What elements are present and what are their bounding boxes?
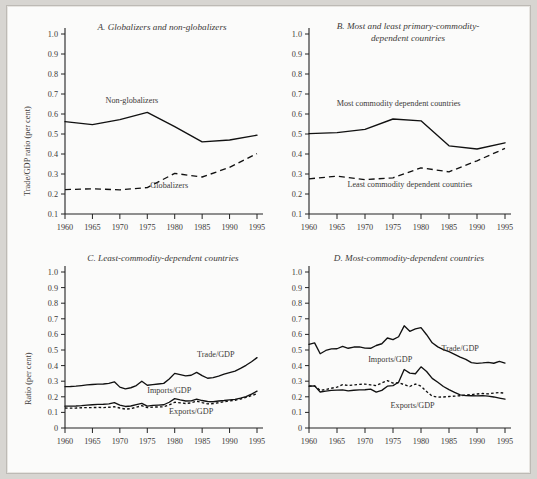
series-line-exports-gdp bbox=[309, 381, 505, 398]
x-tick-label: 1965 bbox=[84, 437, 100, 446]
x-tick-label: 1985 bbox=[194, 437, 210, 446]
y-tick-label: 0.3 bbox=[48, 377, 58, 386]
y-tick-label: 1.0 bbox=[48, 268, 58, 277]
panel-b-title: B. Most and least primary-commodity- dep… bbox=[309, 21, 507, 44]
y-tick-label: 0.2 bbox=[48, 190, 58, 199]
y-tick-label: 0.3 bbox=[292, 377, 302, 386]
y-tick-label: 0.1 bbox=[292, 210, 302, 219]
x-tick-label: 1965 bbox=[329, 223, 345, 232]
series-label: Imports/GDP bbox=[368, 355, 413, 364]
x-tick-label: 1970 bbox=[112, 223, 128, 232]
x-tick-label: 1980 bbox=[413, 223, 429, 232]
x-tick-label: 1960 bbox=[301, 223, 317, 232]
series-label: Exports/GDP bbox=[169, 407, 214, 416]
panel-b: B. Most and least primary-commodity- dep… bbox=[267, 6, 530, 240]
panel-d-plot: 00.10.20.30.40.50.60.70.80.91.0196019651… bbox=[267, 240, 530, 473]
series-line-least-commodity-dependent-countries bbox=[309, 148, 505, 179]
x-tick-label: 1960 bbox=[57, 223, 73, 232]
x-tick-label: 1995 bbox=[497, 437, 513, 446]
x-tick-label: 1995 bbox=[249, 437, 265, 446]
series-line-imports-gdp bbox=[309, 367, 505, 399]
y-tick-label: 0.5 bbox=[48, 130, 58, 139]
y-tick-label: 1.0 bbox=[292, 268, 302, 277]
x-tick-label: 1975 bbox=[385, 437, 401, 446]
y-tick-label: 0.8 bbox=[292, 299, 302, 308]
x-tick-label: 1990 bbox=[221, 223, 237, 232]
series-line-non-globalizers bbox=[65, 112, 257, 141]
x-tick-label: 1995 bbox=[249, 223, 265, 232]
series-label: Most commodity dependent countries bbox=[337, 99, 461, 108]
y-tick-label: 0.1 bbox=[292, 408, 302, 417]
series-label: Non-globalizers bbox=[106, 96, 159, 105]
x-tick-label: 1990 bbox=[221, 437, 237, 446]
x-tick-label: 1960 bbox=[301, 437, 317, 446]
y-tick-label: 0.2 bbox=[292, 190, 302, 199]
y-tick-label: 0.7 bbox=[292, 90, 302, 99]
y-tick-label: 0.6 bbox=[48, 110, 58, 119]
series-label: Least commodity dependent countries bbox=[347, 180, 472, 189]
y-tick-label: 0.8 bbox=[48, 299, 58, 308]
x-tick-label: 1985 bbox=[441, 223, 457, 232]
y-tick-label: 1.0 bbox=[48, 30, 58, 39]
y-tick-label: 0.4 bbox=[48, 150, 58, 159]
series-label: Globalizers bbox=[150, 181, 188, 190]
x-tick-label: 1995 bbox=[497, 223, 513, 232]
series-line-trade-gdp bbox=[65, 358, 257, 389]
y-tick-label: 1.0 bbox=[292, 30, 302, 39]
x-tick-label: 1980 bbox=[167, 223, 183, 232]
y-tick-label: 0.7 bbox=[292, 315, 302, 324]
y-tick-label: 0.4 bbox=[48, 362, 58, 371]
series-line-most-commodity-dependent-countries bbox=[309, 119, 505, 149]
x-tick-label: 1965 bbox=[84, 223, 100, 232]
x-tick-label: 1990 bbox=[469, 223, 485, 232]
x-tick-label: 1985 bbox=[194, 223, 210, 232]
panel-a-ylabel: Trade/GDP ratio (per cent) bbox=[23, 106, 32, 196]
y-tick-label: 0.7 bbox=[48, 90, 58, 99]
x-tick-label: 1970 bbox=[112, 437, 128, 446]
panel-d: D. Most-commodity-dependent countries 00… bbox=[267, 240, 530, 473]
panel-a: A. Globalizers and non-globalizers Trade… bbox=[7, 6, 269, 240]
x-tick-label: 1975 bbox=[385, 223, 401, 232]
y-tick-label: 0.8 bbox=[292, 70, 302, 79]
y-tick-label: 0.5 bbox=[292, 346, 302, 355]
series-label: Imports/GDP bbox=[147, 386, 192, 395]
series-line-exports-gdp bbox=[65, 394, 257, 409]
y-tick-label: 0.4 bbox=[292, 362, 302, 371]
x-tick-label: 1965 bbox=[329, 437, 345, 446]
x-tick-label: 1990 bbox=[469, 437, 485, 446]
y-tick-label: 0.1 bbox=[48, 408, 58, 417]
series-label: Exports/GDP bbox=[391, 401, 436, 410]
series-label: Trade/GDP bbox=[441, 344, 479, 353]
y-tick-label: 0.7 bbox=[48, 315, 58, 324]
x-tick-label: 1980 bbox=[413, 437, 429, 446]
x-tick-label: 1970 bbox=[357, 223, 373, 232]
y-tick-label: 0.9 bbox=[292, 50, 302, 59]
y-tick-label: 0.3 bbox=[48, 170, 58, 179]
y-tick-label: 0.3 bbox=[292, 170, 302, 179]
panel-b-title-line2: dependent countries bbox=[371, 33, 445, 43]
figure-page: A. Globalizers and non-globalizers Trade… bbox=[0, 0, 537, 479]
x-tick-label: 1970 bbox=[357, 437, 373, 446]
y-tick-label: 0.6 bbox=[48, 330, 58, 339]
y-tick-label: 0.9 bbox=[292, 284, 302, 293]
x-tick-label: 1975 bbox=[139, 437, 155, 446]
y-tick-label: 0.9 bbox=[48, 284, 58, 293]
y-tick-label: 0.4 bbox=[292, 150, 302, 159]
x-tick-label: 1960 bbox=[57, 437, 73, 446]
panel-c-ylabel: Ratio (per cent) bbox=[24, 352, 33, 405]
y-tick-label: 0.5 bbox=[292, 130, 302, 139]
panel-c-title: C. Least-commodity-dependent countries bbox=[63, 253, 263, 265]
panel-c-plot: 00.10.20.30.40.50.60.70.80.91.0196019651… bbox=[7, 240, 269, 473]
y-tick-label: 0.2 bbox=[292, 393, 302, 402]
y-tick-label: 0.6 bbox=[292, 110, 302, 119]
y-tick-label: 0.9 bbox=[48, 50, 58, 59]
y-tick-label: 0.5 bbox=[48, 346, 58, 355]
series-label: Trade/GDP bbox=[197, 350, 235, 359]
x-tick-label: 1980 bbox=[167, 437, 183, 446]
panel-a-plot: 0.10.20.30.40.50.60.70.80.91.01960196519… bbox=[7, 6, 269, 240]
panel-a-title: A. Globalizers and non-globalizers bbox=[67, 22, 257, 34]
y-tick-label: 0.2 bbox=[48, 393, 58, 402]
y-tick-label: 0 bbox=[54, 424, 58, 433]
panel-b-title-line1: B. Most and least primary-commodity- bbox=[337, 21, 480, 31]
x-tick-label: 1985 bbox=[441, 437, 457, 446]
